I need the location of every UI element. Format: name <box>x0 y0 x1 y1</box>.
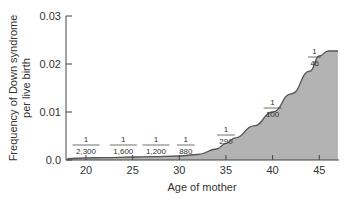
x-tick-label: 25 <box>127 164 139 176</box>
x-tick-label: 20 <box>80 164 92 176</box>
plot-area <box>67 51 338 160</box>
annotation-denominator: 1,600 <box>113 147 134 156</box>
annotation-denominator: 100 <box>266 110 280 119</box>
frequency-annotation: 11,200 <box>142 135 169 156</box>
frequency-annotation: 12,300 <box>73 135 100 156</box>
annotation-numerator: 1 <box>84 135 89 144</box>
annotation-denominator: 1,200 <box>146 147 167 156</box>
annotation-numerator: 1 <box>312 47 317 56</box>
annotation-numerator: 1 <box>270 98 275 107</box>
annotation-denominator: 880 <box>179 147 193 156</box>
annotation-numerator: 1 <box>154 135 159 144</box>
frequency-annotation: 1880 <box>177 135 195 156</box>
annotation-numerator: 1 <box>224 125 229 134</box>
annotation-numerator: 1 <box>121 135 126 144</box>
y-tick-label: 0.0 <box>46 154 61 166</box>
annotation-numerator: 1 <box>184 135 189 144</box>
y-axis: 0.00.010.020.03 <box>40 10 72 166</box>
y-axis-title-line2: per live birth <box>20 58 32 118</box>
annotation-denominator: 2,300 <box>76 147 97 156</box>
x-tick-label: 45 <box>313 164 325 176</box>
annotation-denominator: 46 <box>310 59 319 68</box>
frequency-annotation: 1290 <box>217 125 235 146</box>
frequency-area <box>67 51 338 160</box>
x-tick-label: 35 <box>220 164 232 176</box>
x-tick-label: 30 <box>173 164 185 176</box>
annotation-denominator: 290 <box>219 137 233 146</box>
frequency-annotation: 11,600 <box>110 135 137 156</box>
y-tick-label: 0.01 <box>40 106 61 118</box>
y-axis-title-line1: Frequency of Down syndrome <box>7 15 19 162</box>
y-tick-label: 0.03 <box>40 10 61 22</box>
down-syndrome-frequency-chart: 0.00.010.020.03 202530354045 12,30011,60… <box>0 0 359 201</box>
x-axis-title: Age of mother <box>167 181 236 193</box>
x-tick-label: 40 <box>266 164 278 176</box>
y-tick-label: 0.02 <box>40 58 61 70</box>
